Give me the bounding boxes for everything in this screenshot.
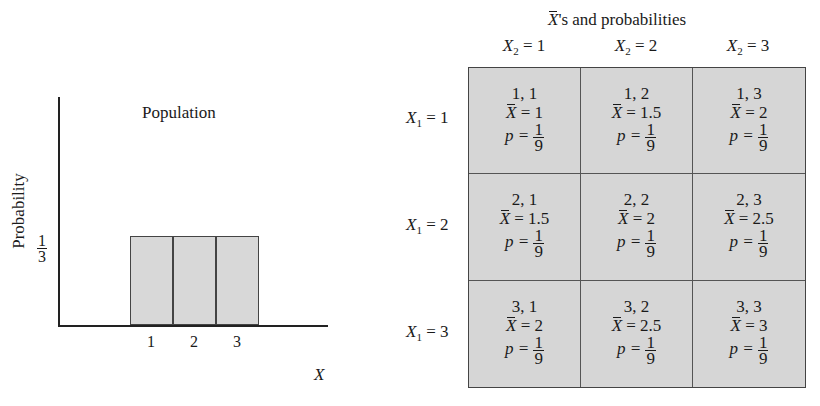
cell-pair: 3, 1 [512,297,538,316]
cell-pair: 2, 1 [512,190,538,209]
cell-pair: 3, 3 [736,297,762,316]
cell-pair: 1, 3 [736,84,762,103]
grid-cell-2: 1, 2 X = 1.5 p = 19 [581,68,693,174]
x-tick-3: 3 [227,333,247,351]
bar-1 [130,236,173,325]
cell-pair: 2, 3 [736,190,762,209]
chart-title: Population [142,103,216,123]
cell-probability: p = 19 [730,122,769,153]
grid-cell-6: 2, 3 X = 2.5 p = 19 [693,174,805,280]
bar-3 [216,236,259,325]
sample-mean-grid: 1, 1 X = 1 p = 19 1, 2 X = 1.5 p = 19 1,… [468,67,806,388]
cell-probability: p = 19 [617,228,656,259]
cell-probability: p = 19 [505,122,544,153]
col-header-1: X2 = 1 [468,36,580,57]
x-tick-2: 2 [184,333,204,351]
cell-pair: 3, 2 [624,297,650,316]
population-chart: Population Probability 1 3 1 2 3 X [0,0,340,406]
x-axis [58,325,328,327]
y-tick-one-third: 1 3 [37,233,47,264]
grid-cell-7: 3, 1 X = 2 p = 19 [469,281,581,387]
y-axis-label: Probability [9,166,29,256]
cell-probability: p = 19 [617,122,656,153]
cell-probability: p = 19 [617,335,656,366]
y-axis [58,97,60,326]
cell-probability: p = 19 [730,228,769,259]
grid-cell-5: 2, 2 X = 2 p = 19 [581,174,693,280]
grid-cell-3: 1, 3 X = 2 p = 19 [693,68,805,174]
grid-cell-1: 1, 1 X = 1 p = 19 [469,68,581,174]
grid-cell-8: 3, 2 X = 2.5 p = 19 [581,281,693,387]
cell-pair: 1, 1 [512,84,538,103]
grid-cell-9: 3, 3 X = 3 p = 19 [693,281,805,387]
x-axis-label: X [314,365,324,385]
row-header-2: X1 = 2 [406,215,466,236]
cell-probability: p = 19 [505,228,544,259]
cell-probability: p = 19 [730,335,769,366]
grid-cell-4: 2, 1 X = 1.5 p = 19 [469,174,581,280]
row-header-3: X1 = 3 [406,322,466,343]
bar-2 [173,236,216,325]
grid-title: X's and probabilities [548,10,686,30]
col-header-3: X2 = 3 [692,36,804,57]
row-header-1: X1 = 1 [406,108,466,129]
col-header-2: X2 = 2 [580,36,692,57]
cell-probability: p = 19 [505,335,544,366]
cell-pair: 2, 2 [624,190,650,209]
x-tick-1: 1 [141,333,161,351]
cell-pair: 1, 2 [624,84,650,103]
